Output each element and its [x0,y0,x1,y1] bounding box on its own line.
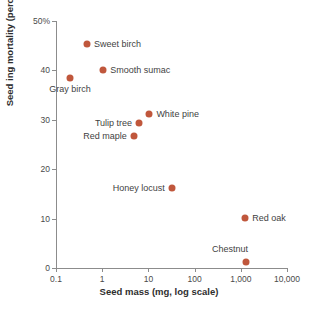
x-tick-label: 1,000 [230,274,251,284]
data-point-label: Red maple [83,131,127,141]
y-tick-mark [52,219,56,220]
data-point-label: Chestnut [212,244,248,254]
x-tick-label: 10,000 [274,274,300,284]
y-tick-label: 30 [41,115,50,125]
x-tick-mark [241,268,242,272]
data-point [130,132,137,139]
x-axis-title: Seed mass (mg, log scale) [0,286,318,297]
y-tick-label: 0 [45,263,50,273]
data-point-label: Honey locust [113,183,165,193]
data-point [84,40,91,47]
y-tick-label: 10 [41,214,50,224]
x-tick-mark [148,268,149,272]
data-point [100,67,107,74]
x-axis-line [56,268,287,269]
scatter-plot-figure: 01020304050% 0.11101001,00010,000 Sweet … [0,0,318,318]
data-point [168,185,175,192]
data-point [243,258,250,265]
x-tick-label: 0.1 [50,274,62,284]
x-tick-mark [56,268,57,272]
plot-area: 01020304050% 0.11101001,00010,000 Sweet … [56,21,287,268]
y-tick-mark [52,169,56,170]
x-tick-mark [287,268,288,272]
data-point [146,110,153,117]
y-tick-mark [52,21,56,22]
data-point-label: Sweet birch [94,39,141,49]
data-point [66,75,73,82]
y-axis-title: Seed ing mortality (percent) [4,0,20,167]
data-point [136,119,143,126]
y-tick-mark [52,120,56,121]
data-point-label: Gray birch [49,84,91,94]
y-tick-label: 40 [41,65,50,75]
y-tick-label: 50% [33,16,50,26]
x-tick-label: 100 [188,274,202,284]
data-point-label: Tulip tree [95,118,132,128]
y-tick-mark [52,70,56,71]
y-tick-label: 20 [41,164,50,174]
x-tick-label: 1 [100,274,105,284]
data-point [242,214,249,221]
data-point-label: Smooth sumac [110,65,170,75]
y-axis-line [56,21,57,268]
x-tick-mark [102,268,103,272]
data-point-label: White pine [156,109,199,119]
data-point-label: Red oak [252,213,286,223]
x-tick-label: 10 [144,274,153,284]
x-tick-mark [195,268,196,272]
